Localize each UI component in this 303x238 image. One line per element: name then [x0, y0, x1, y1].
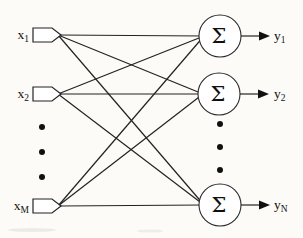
output-arrow	[241, 201, 270, 210]
input-ellipsis-icon	[39, 124, 45, 180]
ellipsis-dot	[39, 149, 45, 155]
connection-line	[58, 36, 204, 206]
input-label: x1	[18, 27, 30, 44]
ellipsis-dot	[217, 167, 223, 173]
ellipsis-dot	[217, 144, 223, 150]
output-arrow	[241, 32, 270, 41]
scan-smudge	[137, 229, 163, 232]
network-diagram-figure: x1 x2 xM Σ Σ Σ y1 y2 yN	[0, 0, 303, 238]
output-label: y2	[274, 86, 286, 103]
input-connector	[33, 28, 61, 42]
input-label: xM	[14, 198, 30, 215]
connection-line	[58, 35, 204, 36]
connection-wires	[58, 35, 204, 206]
ellipsis-dot	[39, 124, 45, 130]
output-label: y1	[274, 28, 286, 45]
sigma-symbol: Σ	[212, 24, 227, 48]
input-label: x2	[18, 86, 30, 103]
sigma-symbol: Σ	[211, 82, 226, 106]
arrowhead-icon	[258, 90, 269, 99]
sigma-symbol: Σ	[212, 193, 227, 217]
ellipsis-dot	[217, 121, 223, 127]
input-connector	[33, 87, 61, 101]
arrowhead-icon	[259, 201, 270, 210]
ellipsis-dot	[39, 174, 45, 180]
output-arrow	[240, 90, 269, 99]
connection-line	[58, 35, 204, 205]
diagram-svg: x1 x2 xM Σ Σ Σ y1 y2 yN	[0, 0, 303, 238]
output-label: yN	[274, 197, 288, 214]
input-connector	[33, 199, 61, 213]
connection-line	[58, 205, 204, 206]
arrowhead-icon	[259, 32, 270, 41]
scan-smudge	[8, 228, 56, 232]
node-ellipsis-icon	[217, 121, 223, 173]
